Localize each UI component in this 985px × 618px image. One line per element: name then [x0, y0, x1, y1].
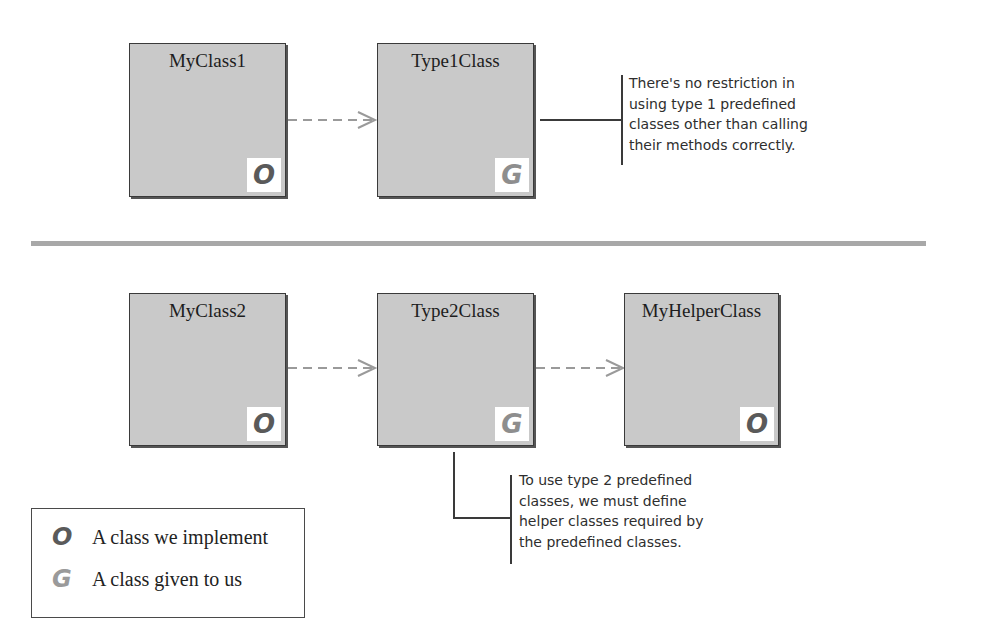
note-line: their methods correctly. — [629, 135, 808, 156]
legend-item-given: G A class given to us — [52, 565, 242, 593]
class-box-myclass2: MyClass2 O — [129, 293, 286, 446]
given-class-icon: G — [495, 158, 529, 192]
dependency-arrow-3 — [534, 358, 626, 378]
class-name: Type2Class — [378, 300, 533, 322]
note-type1: There's no restriction in using type 1 p… — [629, 73, 808, 155]
class-box-type1class: Type1Class G — [377, 43, 534, 197]
note-line: classes, we must define — [519, 491, 703, 512]
callout-bracket — [510, 475, 512, 564]
note-type2: To use type 2 predefined classes, we mus… — [519, 470, 703, 552]
legend-label: A class given to us — [92, 568, 242, 591]
dependency-arrow-2 — [286, 358, 378, 378]
callout-connector — [453, 517, 512, 519]
class-name: MyHelperClass — [625, 300, 778, 322]
legend-item-implemented: O A class we implement — [52, 523, 268, 551]
class-name: MyClass2 — [130, 300, 285, 322]
note-line: helper classes required by — [519, 511, 703, 532]
callout-drop — [453, 452, 455, 519]
implemented-class-icon: O — [52, 523, 82, 551]
note-line: the predefined classes. — [519, 532, 703, 553]
callout-bracket — [621, 75, 623, 165]
class-name: Type1Class — [378, 50, 533, 72]
legend-label: A class we implement — [92, 526, 268, 549]
implemented-class-icon: O — [247, 158, 281, 192]
callout-connector — [540, 119, 623, 121]
note-line: using type 1 predefined — [629, 94, 808, 115]
given-class-icon: G — [495, 407, 529, 441]
class-name: MyClass1 — [130, 50, 285, 72]
legend: O A class we implement G A class given t… — [31, 508, 305, 618]
note-line: classes other than calling — [629, 114, 808, 135]
given-class-icon: G — [52, 565, 82, 593]
note-line: To use type 2 predefined — [519, 470, 703, 491]
class-box-myhelperclass: MyHelperClass O — [624, 293, 779, 446]
class-box-myclass1: MyClass1 O — [129, 43, 286, 197]
note-line: There's no restriction in — [629, 73, 808, 94]
section-divider — [31, 241, 926, 246]
implemented-class-icon: O — [740, 407, 774, 441]
dependency-arrow-1 — [286, 110, 378, 130]
implemented-class-icon: O — [247, 407, 281, 441]
class-box-type2class: Type2Class G — [377, 293, 534, 446]
